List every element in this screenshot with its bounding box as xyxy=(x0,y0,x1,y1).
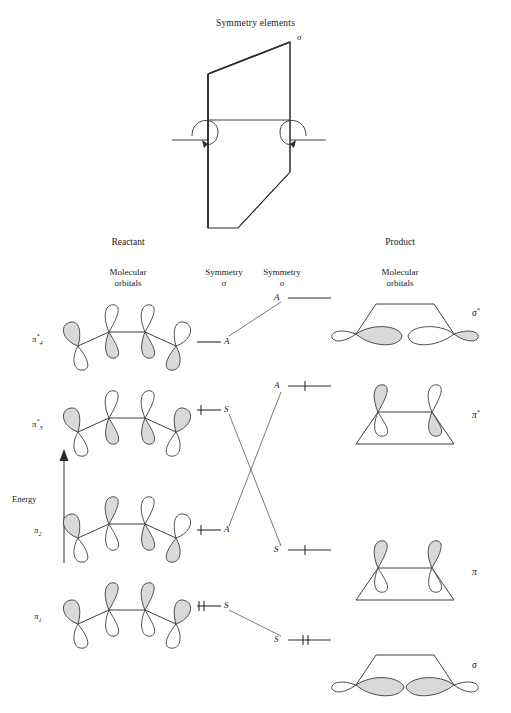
p-orbital-2 xyxy=(105,497,118,550)
reactant-subheader: Molecular orbitals xyxy=(68,267,188,289)
product-mo-diagram-sigma-star xyxy=(330,292,480,362)
p-orbital-4 xyxy=(166,600,190,648)
p-orbital-left xyxy=(374,541,387,592)
rotation-arrow-right-head xyxy=(290,140,296,148)
rotation-arrow-left-head xyxy=(202,140,208,148)
symmetry-header-right-word: Symmetry xyxy=(251,267,313,278)
p-orbital-1 xyxy=(63,322,87,370)
p-orbital-left xyxy=(374,385,387,436)
p-orbital-4 xyxy=(166,322,190,370)
sigma-lobes-left xyxy=(332,678,404,696)
product-mo-diagram-pi xyxy=(330,538,480,610)
symmetry-elements-drawing xyxy=(170,32,360,228)
sigma-lobes-right xyxy=(406,678,478,696)
reactant-subheader-line2: orbitals xyxy=(68,278,188,289)
symmetry-header-right: Symmetry σ xyxy=(251,267,313,289)
reactant-orbital-label-pi1: π1 xyxy=(34,611,42,623)
p-orbital-3 xyxy=(141,497,154,550)
p-orbital-3 xyxy=(141,391,154,444)
reactant-symmetry-pi4: A xyxy=(224,336,230,346)
correlation-diagram xyxy=(193,288,338,668)
figure-title: Symmetry elements xyxy=(0,18,511,28)
p-orbital-3 xyxy=(141,583,154,636)
symmetry-header-left-word: Symmetry xyxy=(193,267,255,278)
product-subheader-line1: Molecular xyxy=(340,267,460,278)
product-orbital-label-sigma: σ xyxy=(472,660,477,670)
reactant-mo-diagram-pi1 xyxy=(57,580,197,652)
correlation-line-pi2-to-pistar xyxy=(229,392,281,526)
p-orbital-2 xyxy=(105,583,118,636)
reactant-mo-diagram-pi2 xyxy=(57,494,197,566)
correlation-line-pi4-to-sigmastar xyxy=(229,302,281,336)
reactant-orbital-label-pi2: π2 xyxy=(34,525,42,537)
reactant-symmetry-pi3: S xyxy=(224,404,229,414)
p-orbital-1 xyxy=(63,514,87,562)
product-subheader-line2: orbitals xyxy=(340,278,460,289)
reactant-subheader-line1: Molecular xyxy=(68,267,188,278)
p-orbital-right xyxy=(428,385,441,436)
sigma-lobes-left xyxy=(332,327,402,345)
p-orbital-2 xyxy=(105,305,118,358)
product-mo-diagram-pi-star xyxy=(330,382,480,454)
product-symmetry-pi-star: A xyxy=(274,380,280,390)
p-orbital-4 xyxy=(166,408,190,456)
product-subheader: Molecular orbitals xyxy=(340,267,460,289)
p-orbital-right xyxy=(428,541,441,592)
reactant-header: Reactant xyxy=(68,237,188,247)
sigma-lobes-right xyxy=(408,327,478,345)
p-orbital-2 xyxy=(105,391,118,444)
mirror-plane-lower-edge xyxy=(238,172,290,228)
correlation-line-pi3-to-pi xyxy=(229,414,281,546)
reactant-orbital-label-pi4: π*4 xyxy=(32,333,43,346)
product-orbital-label-pi-star: π* xyxy=(472,408,480,420)
rotation-arrow-left-curve xyxy=(192,120,218,144)
reactant-symmetry-pi2: A xyxy=(224,524,230,534)
product-header: Product xyxy=(340,237,460,247)
product-symmetry-sigma-star: A xyxy=(274,292,280,302)
symmetry-header-left: Symmetry σ xyxy=(193,267,255,289)
product-mo-diagram-sigma xyxy=(330,643,480,713)
reactant-mo-diagram-pi3 xyxy=(57,388,197,460)
reactant-symmetry-pi1: S xyxy=(224,600,229,610)
energy-axis-label: Energy xyxy=(12,494,36,504)
p-orbital-1 xyxy=(63,408,87,456)
reactant-mo-diagram-pi4 xyxy=(57,302,197,374)
p-orbital-3 xyxy=(141,305,154,358)
sigma-plane-label: σ xyxy=(297,32,301,42)
product-orbital-label-pi: π xyxy=(472,567,477,577)
reactant-orbital-label-pi3: π*3 xyxy=(32,418,43,431)
product-symmetry-sigma: S xyxy=(274,634,279,644)
correlation-line-pi1-to-sigma xyxy=(229,610,281,636)
product-orbital-label-sigma-star: σ* xyxy=(472,306,480,318)
product-symmetry-pi: S xyxy=(274,544,279,554)
p-orbital-4 xyxy=(166,514,190,562)
rotation-arrow-right-curve xyxy=(280,120,306,144)
mirror-plane-top-edge xyxy=(208,42,290,74)
p-orbital-1 xyxy=(63,600,87,648)
